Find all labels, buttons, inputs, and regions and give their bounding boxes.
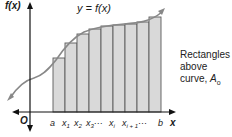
tick-a: a [50,118,55,128]
origin-label: O [20,115,28,126]
tick-x1: x1 [61,118,70,129]
side-line-2: above [180,61,230,73]
y-axis-label: f(x) [5,0,21,11]
side-line-1: Rectangles [180,49,230,61]
tick-xi: xi [108,118,116,129]
tick-x3: x3··· [85,118,103,129]
x-axis-arrow-right [169,109,176,115]
rectangle-8 [137,22,149,112]
curve-label: y = f(x) [76,2,111,14]
rectangle-4 [89,29,101,112]
area-subscript: o [217,79,221,86]
x-axis-arrow-left [12,109,19,115]
rectangle-5 [101,26,113,112]
side-annotation: Rectangles above curve, Ao [180,49,230,89]
rectangle-7 [125,24,137,112]
tick-xi-plus-1: xi + 1··· [121,118,147,129]
side-line-3: curve, Ao [180,73,230,89]
rectangle-1 [53,58,65,112]
tick-x2: x2 [73,118,83,129]
area-symbol: A [210,73,217,84]
rectangle-2 [65,43,77,112]
x-axis-label: x [169,117,176,128]
upper-rectangles [53,17,161,112]
rectangle-6 [113,25,125,112]
rectangle-9 [149,17,161,112]
y-axis-arrow-up [27,2,33,9]
x-tick-labels: a x1 x2 x3··· xi xi + 1··· b [50,118,163,129]
rectangle-3 [77,34,89,112]
y-axis-arrow-down [27,125,33,132]
tick-b: b [158,118,163,128]
